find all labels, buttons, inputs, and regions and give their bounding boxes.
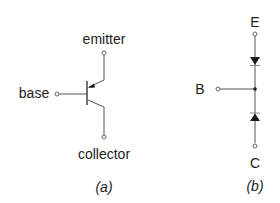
panel-a: emitter base collector (a) <box>19 31 131 195</box>
transistor-diagram: emitter base collector (a) E <box>0 0 280 203</box>
collector-diagonal <box>88 100 104 107</box>
e-terminal-icon <box>253 32 257 36</box>
e-label: E <box>250 14 259 30</box>
collector-terminal-icon <box>102 135 106 139</box>
panel-a-caption: (a) <box>95 179 112 195</box>
collector-label: collector <box>78 146 130 162</box>
upper-diode-icon <box>250 57 260 65</box>
emitter-terminal-icon <box>102 51 106 55</box>
c-terminal-icon <box>253 144 257 148</box>
emitter-label: emitter <box>83 31 126 47</box>
lower-diode-icon <box>250 114 260 122</box>
panel-b: E B C (b) <box>195 14 263 194</box>
base-label: base <box>19 85 50 101</box>
panel-b-caption: (b) <box>246 178 263 194</box>
emitter-arrow-icon <box>88 84 95 89</box>
base-terminal-icon <box>55 92 59 96</box>
c-label: C <box>250 155 260 171</box>
b-label: B <box>195 81 204 97</box>
b-terminal-icon <box>216 87 220 91</box>
